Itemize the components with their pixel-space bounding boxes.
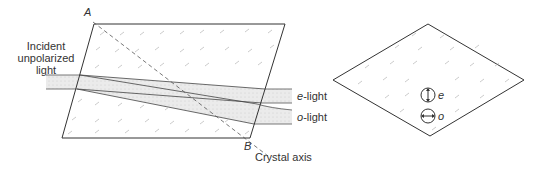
e-symbol-label: e [438,89,444,101]
corner-label-b: B [244,140,251,152]
birefringence-diagram [0,0,534,172]
crystal-axis-label: Crystal axis [255,151,312,163]
e-light-label: e-light [297,90,327,102]
incident-beam [46,75,80,89]
incident-light-label: Incident unpolarized light [14,40,78,76]
o-symbol-label: o [438,110,444,122]
o-light-label: o-light [297,111,327,123]
e-light-beam [262,89,292,103]
crystal-left [46,22,292,156]
crystal-right [333,24,524,136]
corner-label-a: A [84,6,91,18]
